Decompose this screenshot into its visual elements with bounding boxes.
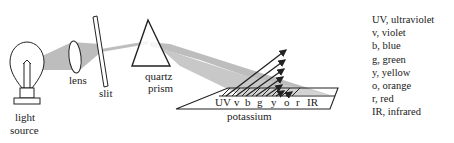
light-bulb-icon — [10, 42, 44, 104]
color-legend: UV, ultraviolet v, violet b, blue g, gre… — [372, 13, 434, 119]
spectrum-label-o: o — [284, 96, 290, 108]
prism-label-2: prism — [148, 82, 174, 94]
slit-label: slit — [99, 87, 112, 99]
spectrum-label-r: r — [296, 96, 300, 108]
legend-item-red: r, red — [372, 92, 434, 105]
legend-item-violet: v, violet — [372, 26, 434, 39]
spectrum-label-g: g — [257, 96, 263, 108]
spectrum-label-uv: UV — [215, 96, 231, 108]
legend-item-uv: UV, ultraviolet — [372, 13, 434, 26]
legend-item-orange: o, orange — [372, 79, 434, 92]
spectrum-label-ir: IR — [307, 96, 319, 108]
spectrum-label-v: v — [234, 96, 240, 108]
lens-label: lens — [69, 74, 87, 86]
spectrum-label-y: y — [271, 96, 277, 108]
spectrum-label-b: b — [245, 96, 251, 108]
legend-item-blue: b, blue — [372, 39, 434, 52]
prism-label-1: quartz — [145, 70, 173, 82]
light-source-label-1: light — [15, 111, 35, 123]
legend-item-yellow: y, yellow — [372, 66, 434, 79]
legend-item-infrared: IR, infrared — [372, 105, 434, 118]
legend-item-green: g, green — [372, 53, 434, 66]
light-source-label-2: source — [10, 124, 39, 136]
potassium-label: potassium — [227, 110, 272, 122]
